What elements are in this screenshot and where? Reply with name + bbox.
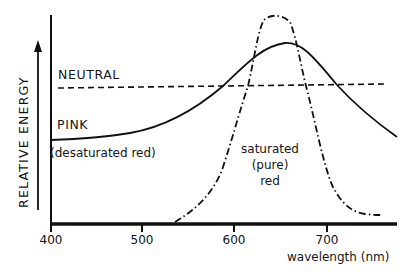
pink-label: PINK [57,117,88,132]
x-axis-label: wavelength (nm) [287,250,389,264]
saturated-red-series-line [175,16,381,222]
neutral-label: NEUTRAL [58,67,120,82]
pink-series-line [51,43,397,140]
arrow-up-icon [34,40,42,52]
saturated-label-line3: red [238,173,302,189]
saturated-label-line1: saturated [238,141,302,157]
saturated-label: saturated (pure) red [238,141,302,189]
x-tick-label-400: 400 [40,233,63,247]
x-tick-label-600: 600 [223,233,246,247]
desaturated-label: (desaturated red) [50,146,156,160]
y-axis-label: RELATIVE ENERGY [16,76,31,208]
x-tick-label-700: 700 [316,233,339,247]
saturated-label-line2: (pure) [238,157,302,173]
x-tick-label-500: 500 [131,233,154,247]
